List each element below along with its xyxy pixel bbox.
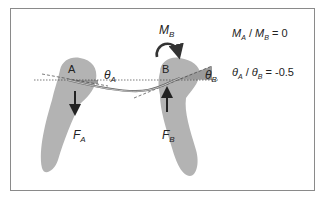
equation-moment-ratio: MA / MB = 0	[232, 27, 288, 41]
theta-a-label: θA	[104, 68, 116, 84]
theta-b-label: θB	[205, 68, 218, 84]
moment-b-arrow	[157, 44, 178, 57]
point-b-label: B	[162, 63, 169, 75]
tooth-movement-diagram: A B θA θB MB FA FB MA / MB = 0 θA / θB =…	[0, 0, 327, 200]
moment-b-label: MB	[159, 23, 175, 39]
point-a-label: A	[68, 63, 76, 75]
force-a-label: FA	[73, 128, 86, 144]
equation-angle-ratio: θA / θB = -0.5	[232, 66, 294, 80]
